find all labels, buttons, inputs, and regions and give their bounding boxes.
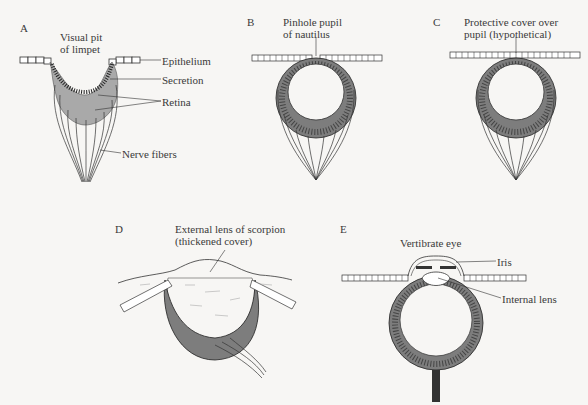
internal-lens: [422, 272, 450, 286]
diagram-e-vertebrate-eye: [0, 0, 588, 405]
